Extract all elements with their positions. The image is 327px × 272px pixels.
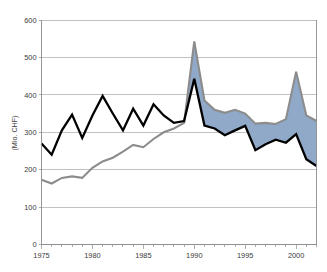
y-tick-label-200: 200 xyxy=(24,165,36,174)
series-line-upper-gray xyxy=(42,41,317,183)
y-axis-title: (Mio. CHF) xyxy=(10,115,19,150)
shaded-band xyxy=(42,41,317,183)
series-group xyxy=(42,41,317,183)
x-tick-label-1990: 1990 xyxy=(186,251,202,260)
series-line-lower-black xyxy=(42,79,317,166)
y-tick-label-500: 500 xyxy=(24,53,36,62)
x-tick-label-2000: 2000 xyxy=(288,251,304,260)
y-tick-label-100: 100 xyxy=(24,203,36,212)
x-tick-label-1980: 1980 xyxy=(84,251,100,260)
y-tick-labels-group: 0100200300400500600 xyxy=(24,16,36,250)
y-tick-label-300: 300 xyxy=(24,128,36,137)
x-tick-labels-group: 197519801985199019952000 xyxy=(33,251,304,260)
y-tick-label-600: 600 xyxy=(24,16,36,25)
x-tick-label-1985: 1985 xyxy=(135,251,151,260)
chart-container: 0100200300400500600 19751980198519901995… xyxy=(0,0,327,272)
x-tick-label-1975: 1975 xyxy=(33,251,49,260)
y-tick-label-400: 400 xyxy=(24,91,36,100)
y-tick-label-0: 0 xyxy=(32,240,36,249)
shaded-band-group xyxy=(42,41,317,183)
line-area-chart: 0100200300400500600 19751980198519901995… xyxy=(0,0,327,272)
x-tick-label-1995: 1995 xyxy=(237,251,253,260)
